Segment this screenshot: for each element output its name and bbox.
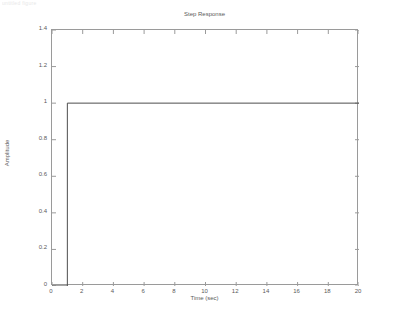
y-axis-label: Amplitude [4,131,10,175]
x-tick-label: 10 [195,288,215,294]
series-line-step-response [52,103,359,286]
x-tick-label: 12 [225,288,245,294]
x-tick-label: 20 [348,288,368,294]
y-axis-ticks [52,30,359,286]
y-tick-label: 0 [23,281,47,287]
chart-title: Step Response [51,11,358,17]
y-tick-label: 0.4 [23,208,47,214]
x-tick-label: 2 [72,288,92,294]
x-tick-label: 6 [133,288,153,294]
y-tick-label: 0.6 [23,171,47,177]
x-tick-label: 0 [41,288,61,294]
figure-canvas: Step Response 00.20.40.60.811.21.4 02468… [0,0,401,316]
x-axis-label: Time (sec) [51,295,358,301]
step-response-line-chart [52,30,359,286]
y-tick-label: 1.2 [23,62,47,68]
plot-area [51,29,358,285]
x-tick-label: 16 [287,288,307,294]
x-tick-label: 8 [164,288,184,294]
x-tick-label: 14 [256,288,276,294]
x-axis-ticks [52,30,359,286]
y-tick-label: 1 [23,98,47,104]
x-tick-label: 18 [317,288,337,294]
x-tick-label: 4 [102,288,122,294]
y-tick-label: 0.2 [23,244,47,250]
y-tick-label: 1.4 [23,25,47,31]
y-tick-label: 0.8 [23,135,47,141]
